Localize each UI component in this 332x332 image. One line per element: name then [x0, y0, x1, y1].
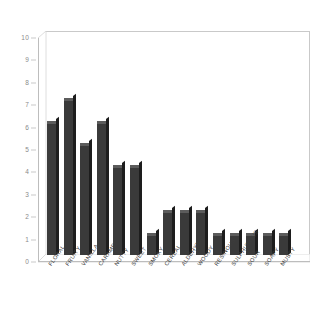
bar-top-face [196, 210, 205, 213]
y-axis-tick-label: 10 [21, 35, 29, 42]
y-axis: 012345678910 [0, 31, 38, 262]
bar-body [47, 121, 58, 255]
y-axis-tick-label: 8 [25, 80, 29, 87]
y-axis-tick-label: 7 [25, 102, 29, 109]
bar-body [64, 98, 75, 255]
bar-top-face [147, 233, 156, 236]
y-axis-tick-label: 2 [25, 214, 29, 221]
y-axis-tick-label: 5 [25, 147, 29, 154]
bar-side-face [106, 118, 109, 255]
bar-top-face [113, 165, 122, 168]
y-axis-tick-mark [31, 38, 36, 39]
bar [130, 165, 141, 255]
bar-side-face [56, 118, 59, 255]
y-axis-tick-label: 9 [25, 57, 29, 64]
y-axis-tick-mark [31, 60, 36, 61]
bar-top-face [130, 165, 139, 168]
bars-layer [38, 31, 310, 262]
y-axis-tick-label: 0 [25, 259, 29, 266]
y-axis-tick-mark [31, 262, 36, 263]
bar-chart: 012345678910 FLORALFRUITYVANILLACARAMELN… [0, 0, 332, 332]
plot-area [38, 31, 310, 262]
bar-top-face [263, 233, 272, 236]
bar-top-face [97, 121, 106, 124]
y-axis-tick-mark [31, 127, 36, 128]
bar [64, 98, 75, 255]
y-axis-tick-label: 1 [25, 236, 29, 243]
bar-front-face [130, 165, 139, 255]
y-axis-tick-mark [31, 105, 36, 106]
bar-top-face [213, 233, 222, 236]
y-axis-tick-label: 4 [25, 169, 29, 176]
bar-side-face [139, 163, 142, 255]
bar-body [97, 121, 108, 255]
y-axis-tick-mark [31, 239, 36, 240]
bar-side-face [89, 141, 92, 255]
bar-front-face [47, 121, 56, 255]
bar-top-face [64, 98, 73, 101]
y-axis-tick-mark [31, 194, 36, 195]
bar-front-face [97, 121, 106, 255]
bar-top-face [180, 210, 189, 213]
bar-top-face [163, 210, 172, 213]
bar-side-face [122, 163, 125, 255]
bar-body [80, 143, 91, 255]
y-axis-tick-mark [31, 150, 36, 151]
y-axis-tick-label: 3 [25, 192, 29, 199]
y-axis-tick-mark [31, 172, 36, 173]
bar [80, 143, 91, 255]
bar-top-face [279, 233, 288, 236]
y-axis-tick-label: 6 [25, 124, 29, 131]
y-axis-tick-mark [31, 217, 36, 218]
bar [47, 121, 58, 255]
bar-top-face [47, 121, 56, 124]
y-axis-tick-mark [31, 82, 36, 83]
bar-top-face [230, 233, 239, 236]
bar [97, 121, 108, 255]
bar-top-face [80, 143, 89, 146]
x-axis-category-labels: FLORALFRUITYVANILLACARAMELNUTTYSWEETSMOK… [38, 264, 318, 332]
bar-front-face [64, 98, 73, 255]
bar-side-face [73, 96, 76, 255]
bar-body [130, 165, 141, 255]
bar-front-face [80, 143, 89, 255]
